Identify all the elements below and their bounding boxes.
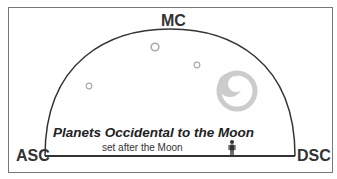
planet-icon: [194, 62, 200, 68]
diagram-title: Planets Occidental to the Moon: [53, 125, 254, 140]
diagram-subtitle: set after the Moon: [102, 142, 183, 153]
planet-icon: [151, 43, 159, 51]
asc-label: ASC: [16, 147, 50, 165]
observer-icon: [229, 140, 236, 156]
mc-label: MC: [161, 12, 186, 30]
moon-icon: [218, 73, 255, 109]
dsc-label: DSC: [297, 147, 331, 165]
planet-icon: [86, 83, 92, 89]
